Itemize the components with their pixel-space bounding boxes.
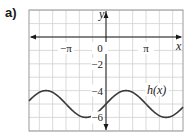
- y-axis-label: y: [98, 7, 105, 21]
- y-tick-label: −4: [91, 85, 103, 97]
- x-tick-label: π: [143, 42, 149, 54]
- x-axis-label: x: [175, 39, 182, 53]
- function-label: h(x): [147, 83, 166, 97]
- y-tick-label: −6: [91, 111, 103, 123]
- x-axis-arrow-left-icon: [30, 35, 36, 40]
- function-graph: −π0π−2−4−6xyh(x): [0, 0, 193, 138]
- x-tick-label: 0: [97, 42, 103, 54]
- y-axis-arrow-down-icon: [104, 124, 109, 130]
- y-tick-label: −2: [91, 58, 103, 70]
- x-tick-label: −π: [60, 42, 72, 54]
